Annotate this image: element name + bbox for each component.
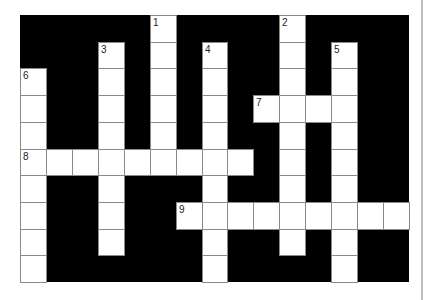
crossword-cell[interactable] xyxy=(227,202,254,230)
crossword-cell[interactable] xyxy=(279,95,306,123)
clue-number: 1 xyxy=(153,17,159,28)
crossword-cell[interactable] xyxy=(98,202,125,230)
crossword-cell[interactable] xyxy=(20,229,47,256)
crossword-cell[interactable]: 4 xyxy=(202,42,228,69)
crossword-cell[interactable] xyxy=(305,202,332,230)
crossword-cell[interactable] xyxy=(279,68,306,96)
crossword-cell[interactable] xyxy=(72,149,99,176)
crossword-cell[interactable] xyxy=(150,95,177,123)
crossword-cell[interactable] xyxy=(357,202,384,230)
crossword-cell[interactable]: 7 xyxy=(253,95,280,123)
crossword-cell[interactable] xyxy=(124,149,151,176)
clue-number: 5 xyxy=(334,44,340,55)
crossword-cell[interactable] xyxy=(279,149,306,176)
crossword-cell[interactable] xyxy=(98,149,125,176)
crossword-cell[interactable] xyxy=(20,95,47,123)
crossword-cell[interactable] xyxy=(279,229,306,256)
crossword-cell[interactable] xyxy=(20,202,47,230)
crossword-cell[interactable] xyxy=(331,229,358,256)
crossword-cell[interactable] xyxy=(150,149,177,176)
clue-number: 7 xyxy=(256,97,262,108)
crossword-cell[interactable] xyxy=(20,255,47,283)
crossword-cell[interactable]: 9 xyxy=(176,202,203,230)
crossword-cell[interactable]: 6 xyxy=(20,68,47,96)
crossword-cell[interactable] xyxy=(202,175,228,203)
crossword-cell[interactable] xyxy=(150,122,177,150)
crossword-cell[interactable] xyxy=(279,175,306,203)
crossword-cell[interactable] xyxy=(383,202,410,230)
crossword-cell[interactable] xyxy=(98,122,125,150)
crossword-cell[interactable] xyxy=(20,175,47,203)
crossword-cell[interactable] xyxy=(331,68,358,96)
crossword-cell[interactable] xyxy=(331,202,358,230)
crossword-grid: 123456879 xyxy=(20,15,409,282)
crossword-cell[interactable] xyxy=(279,202,306,230)
clue-number: 6 xyxy=(23,70,29,81)
crossword-cell[interactable] xyxy=(331,175,358,203)
clue-number: 3 xyxy=(101,44,107,55)
crossword-cell[interactable] xyxy=(279,42,306,69)
clue-number: 2 xyxy=(282,17,288,28)
crossword-cell[interactable] xyxy=(279,122,306,150)
crossword-cell[interactable] xyxy=(202,122,228,150)
crossword-cell[interactable] xyxy=(227,149,254,176)
crossword-cell[interactable]: 3 xyxy=(98,42,125,69)
crossword-cell[interactable]: 8 xyxy=(20,149,47,176)
crossword-cell[interactable] xyxy=(331,122,358,150)
crossword-cell[interactable] xyxy=(98,68,125,96)
crossword-cell[interactable] xyxy=(202,149,228,176)
crossword-cell[interactable]: 5 xyxy=(331,42,358,69)
crossword-cell[interactable] xyxy=(46,149,73,176)
crossword-cell[interactable] xyxy=(98,95,125,123)
clue-number: 9 xyxy=(179,204,185,215)
crossword-cell[interactable]: 1 xyxy=(150,15,177,43)
crossword-cell[interactable] xyxy=(202,229,228,256)
crossword-cell[interactable]: 2 xyxy=(279,15,306,43)
crossword-cell[interactable] xyxy=(331,95,358,123)
crossword-cell[interactable] xyxy=(202,202,228,230)
clue-number: 8 xyxy=(23,151,29,162)
crossword-cell[interactable] xyxy=(176,149,203,176)
crossword-cell[interactable] xyxy=(202,68,228,96)
crossword-cell[interactable] xyxy=(150,42,177,69)
crossword-cell[interactable] xyxy=(98,175,125,203)
crossword-cell[interactable] xyxy=(331,149,358,176)
clue-number: 4 xyxy=(205,44,211,55)
crossword-cell[interactable] xyxy=(202,95,228,123)
crossword-cell[interactable] xyxy=(253,202,280,230)
crossword-cell[interactable] xyxy=(20,122,47,150)
crossword-cell[interactable] xyxy=(202,255,228,283)
crossword-cell[interactable] xyxy=(150,68,177,96)
crossword-cell[interactable] xyxy=(331,255,358,283)
crossword-cell[interactable] xyxy=(305,95,332,123)
crossword-cell[interactable] xyxy=(98,229,125,256)
